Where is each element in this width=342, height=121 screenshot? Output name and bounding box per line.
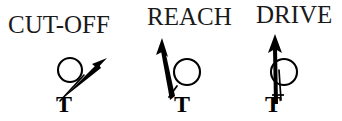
handle-label-t-reach: T <box>174 92 190 116</box>
handle-label-t-cut-off: T <box>56 92 72 116</box>
panel-reach: REACH T <box>118 0 230 121</box>
stroke-figure-drive <box>230 0 342 121</box>
panel-cut-off: CUT-OFF T <box>0 0 120 121</box>
swing-arrow-head-icon <box>91 58 107 75</box>
handle-label-t-drive: T <box>265 92 281 116</box>
swing-arrow-shaft <box>161 50 175 100</box>
ball-icon <box>174 59 200 85</box>
panel-drive: DRIVE T <box>230 0 342 121</box>
ball-icon <box>58 58 82 82</box>
stroke-types-diagram: CUT-OFF T REACH T DRIVE <box>0 0 342 121</box>
